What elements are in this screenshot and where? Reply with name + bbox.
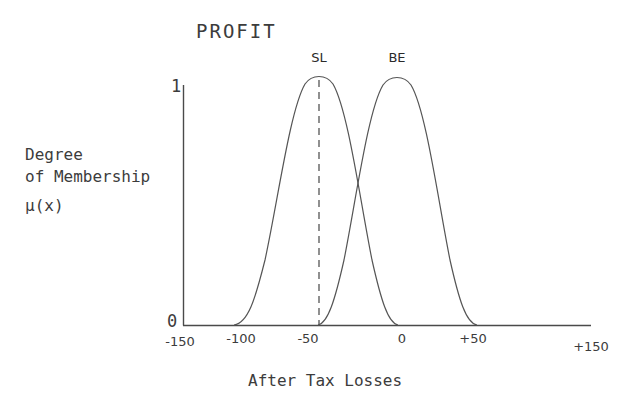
series-sl-curve <box>234 77 398 326</box>
x-tick-minus-100: -100 <box>226 332 256 345</box>
x-tick-minus-50: -50 <box>297 332 318 345</box>
x-tick-0: 0 <box>398 332 406 345</box>
series-be-curve <box>318 78 477 326</box>
x-tick-plus-50: +50 <box>459 332 486 345</box>
x-tick-minus-150: -150 <box>165 335 195 348</box>
series-label-sl: SL <box>311 51 327 64</box>
series-label-be: BE <box>388 51 405 64</box>
x-axis-label: After Tax Losses <box>248 373 402 389</box>
x-tick-plus-150: +150 <box>573 340 609 353</box>
